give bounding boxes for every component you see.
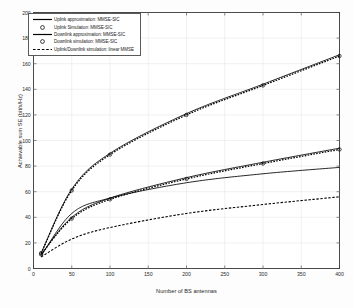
legend-symbol-icon (32, 46, 54, 53)
legend-label: Uplink approximation: MMSE-SIC (54, 16, 120, 23)
legend-item: Uplink/Downlink simulation: linear MMSE (31, 46, 138, 53)
legend-symbol-icon (32, 38, 54, 45)
x-tick-label: 300 (251, 271, 275, 277)
x-tick-label: 150 (136, 271, 160, 277)
legend-item: Downlink approximation: MMSE-SIC (31, 31, 138, 38)
x-tick-label: 350 (289, 271, 313, 277)
y-tick-label: 200 (7, 10, 31, 16)
y-tick-label: 20 (7, 240, 31, 246)
legend-symbol-icon (32, 24, 54, 31)
legend-symbol-icon (32, 31, 54, 38)
x-tick-label: 100 (98, 271, 122, 277)
chart-legend: Uplink approximation: MMSE-SICUplink Sim… (28, 13, 141, 56)
legend-label: Uplink Simulation: MMSE-SIC (54, 24, 112, 31)
legend-label: Downlink simulation: MMSE-SIC (54, 38, 117, 45)
legend-label: Downlink approximation: MMSE-SIC (54, 31, 125, 38)
y-axis-title: Achievable sum SE (bit/s/Hz) (17, 71, 23, 191)
legend-item: Uplink approximation: MMSE-SIC (31, 16, 138, 23)
x-axis-title: Number of BS antennas (33, 288, 340, 294)
x-tick-label: 50 (60, 271, 84, 277)
y-tick-label: 160 (7, 61, 31, 67)
x-tick-label: 200 (175, 271, 199, 277)
legend-symbol-icon (32, 16, 54, 23)
y-tick-label: 180 (7, 35, 31, 41)
legend-item: Downlink simulation: MMSE-SIC (31, 38, 138, 45)
chart-figure: 020406080100120140160180200 050100150200… (0, 0, 354, 308)
legend-label: Uplink/Downlink simulation: linear MMSE (54, 46, 134, 53)
x-tick-label: 250 (213, 271, 237, 277)
x-tick-label: 400 (328, 271, 352, 277)
x-tick-label: 0 (22, 271, 46, 277)
legend-item: Uplink Simulation: MMSE-SIC (31, 23, 138, 30)
y-tick-label: 40 (7, 214, 31, 220)
